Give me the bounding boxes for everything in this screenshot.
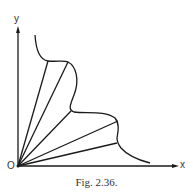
origin-label: O <box>7 160 15 171</box>
x-axis-label: x <box>180 159 185 170</box>
y-axis-arrow <box>16 26 20 33</box>
figure-caption: Fig. 2.36. <box>0 176 193 188</box>
y-axis-label: y <box>14 13 19 24</box>
x-axis-arrow <box>172 164 179 168</box>
figure-diagram <box>0 0 193 192</box>
origin-point <box>17 165 20 168</box>
curve <box>35 35 150 163</box>
